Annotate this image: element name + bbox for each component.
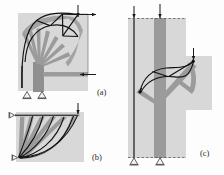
pin-support-left (129, 158, 138, 165)
pin-support-right (37, 92, 46, 99)
panel-c: (c) (128, 4, 212, 165)
panel-c-label: (c) (200, 148, 210, 158)
panel-c-supports (129, 158, 164, 165)
roller-support-top-left (9, 112, 15, 118)
panel-c-column-core (154, 18, 166, 158)
panel-c-bracket-node (192, 60, 195, 63)
panel-a: (a) (18, 5, 107, 99)
panel-a-label: (a) (97, 87, 107, 97)
figure-container: (a) (0, 0, 224, 175)
strut-and-tie-figure: (a) (0, 0, 224, 175)
pin-support-left (22, 92, 31, 99)
panel-a-tie-chord-4 (63, 36, 78, 37)
panel-b: (b) (9, 103, 102, 162)
pin-support-right (155, 158, 164, 165)
panel-a-column-stem (33, 62, 44, 92)
panel-a-supports (22, 92, 46, 99)
panel-c-tie-node (138, 90, 141, 93)
panel-b-label: (b) (92, 152, 102, 162)
